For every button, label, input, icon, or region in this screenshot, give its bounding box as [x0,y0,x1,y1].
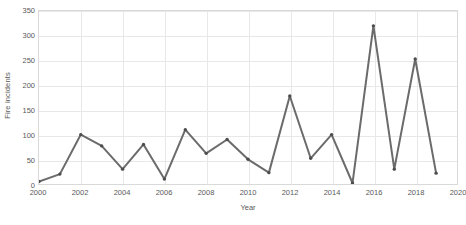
data-point-marker [79,133,82,136]
data-point-marker [205,152,208,155]
data-series [39,11,457,184]
x-tick-label: 2008 [198,188,215,197]
data-point-marker [121,167,124,170]
x-tick-label: 2012 [282,188,299,197]
data-point-marker [393,167,396,170]
data-point-marker [163,177,166,180]
series-line [39,26,436,183]
x-axis-title: Year [38,203,458,212]
x-tick-label: 2000 [30,188,47,197]
y-tick-label: 300 [22,31,35,40]
y-tick-label: 200 [22,81,35,90]
data-point-marker [434,171,437,174]
x-tick-label: 2014 [324,188,341,197]
data-point-marker [372,24,375,27]
data-point-marker [142,143,145,146]
data-point-marker [330,133,333,136]
x-tick-label: 2018 [408,188,425,197]
data-point-marker [309,157,312,160]
y-axis-tick-labels: 050100150200250300350 [14,0,38,190]
data-point-marker [225,138,228,141]
x-tick-label: 2004 [114,188,131,197]
y-axis-title: Fire incidents [0,0,14,190]
y-tick-label: 350 [22,6,35,15]
y-tick-label: 50 [27,156,35,165]
plot-area [38,10,458,185]
x-axis-tick-labels: 2000200220042006200820102012201420162018… [38,188,458,202]
x-tick-label: 2020 [450,188,466,197]
line-chart: Fire incidents 050100150200250300350 200… [0,0,466,225]
data-point-marker [246,158,249,161]
data-point-marker [288,94,291,97]
x-tick-label: 2016 [366,188,383,197]
data-point-marker [100,144,103,147]
data-point-marker [58,172,61,175]
x-tick-label: 2010 [240,188,257,197]
data-point-marker [184,128,187,131]
y-tick-label: 150 [22,106,35,115]
data-point-marker [267,171,270,174]
x-tick-label: 2006 [156,188,173,197]
y-axis-title-label: Fire incidents [3,72,12,119]
data-point-marker [414,57,417,60]
y-tick-label: 100 [22,131,35,140]
y-tick-label: 250 [22,56,35,65]
x-tick-label: 2002 [72,188,89,197]
